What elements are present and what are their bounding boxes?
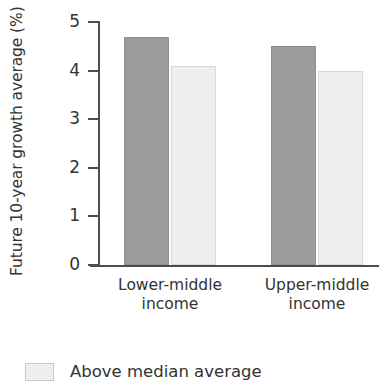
y-tick-mark: [88, 167, 98, 169]
y-tick-label: 5: [40, 11, 80, 31]
x-tick-label-line: Lower-middle: [90, 276, 250, 295]
y-tick-label: 2: [40, 157, 80, 177]
y-tick-mark: [88, 215, 98, 217]
legend: Above median average: [25, 362, 262, 381]
bar: [171, 66, 216, 265]
x-tick-label-line: income: [90, 295, 250, 314]
y-tick-mark: [88, 264, 98, 266]
y-tick-mark: [88, 21, 98, 23]
y-tick-mark: [88, 70, 98, 72]
bar-chart-figure: Future 10-year growth average (%) 012345…: [0, 0, 388, 388]
y-tick-label: 3: [40, 108, 80, 128]
legend-swatch-above-median: [25, 363, 54, 381]
x-tick-label-line: Upper-middle: [237, 276, 388, 295]
legend-label-above-median: Above median average: [70, 362, 262, 381]
y-tick-label: 1: [40, 205, 80, 225]
y-axis-title: Future 10-year growth average (%): [8, 16, 26, 276]
y-tick-label: 4: [40, 60, 80, 80]
bar: [271, 46, 316, 265]
y-tick-mark: [88, 118, 98, 120]
bar: [318, 71, 363, 265]
x-tick-label: Upper-middleincome: [237, 276, 388, 314]
x-tick-label: Lower-middleincome: [90, 276, 250, 314]
bar: [124, 37, 169, 265]
plot-area: [98, 22, 379, 266]
x-tick-label-line: income: [237, 295, 388, 314]
y-tick-label: 0: [40, 254, 80, 274]
